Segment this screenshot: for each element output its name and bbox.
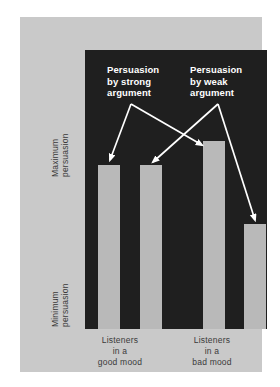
x-axis-label-good-mood: Listeners in a good mood bbox=[80, 335, 160, 368]
plot-area: Persuasion by strong argument Persuasion… bbox=[85, 50, 267, 329]
x-axis-label-bad-mood: Listeners in a bad mood bbox=[172, 335, 252, 368]
bar-weak-good bbox=[140, 165, 162, 329]
arrow-strong-to-bad bbox=[131, 104, 202, 145]
chart-panel: Maximum persuasion Minimum persuasion Pe… bbox=[20, 17, 262, 372]
bar-strong-good bbox=[98, 165, 120, 329]
bar-strong-bad bbox=[203, 141, 225, 329]
y-axis-min-label: Minimum persuasion bbox=[50, 197, 70, 327]
figure-container: Maximum persuasion Minimum persuasion Pe… bbox=[0, 0, 280, 387]
annotation-strong-argument: Persuasion by strong argument bbox=[107, 64, 159, 99]
annotation-weak-argument: Persuasion by weak argument bbox=[190, 64, 242, 99]
arrow-strong-to-good bbox=[110, 104, 131, 160]
y-axis-max-label: Maximum persuasion bbox=[50, 47, 70, 177]
bar-weak-bad bbox=[244, 224, 266, 329]
